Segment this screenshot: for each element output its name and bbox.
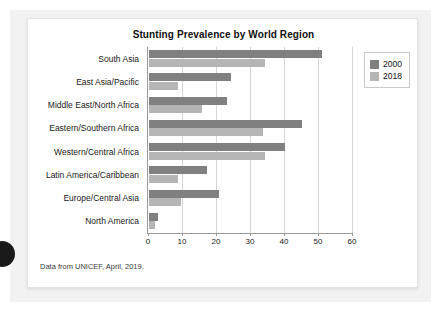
bar-2018 (149, 128, 263, 136)
x-tick-mark (216, 233, 217, 236)
category-label: Western/Central Africa (54, 147, 139, 157)
bar-2000 (149, 143, 285, 151)
x-tick-mark (352, 233, 353, 236)
x-tick-label: 0 (146, 237, 150, 246)
x-tick-label: 10 (178, 237, 187, 246)
bar-2000 (149, 190, 219, 198)
bar-2000 (149, 120, 302, 128)
x-tick-mark (250, 233, 251, 236)
bar-2000 (149, 73, 231, 81)
x-tick-label: 40 (280, 237, 289, 246)
bar-2018 (149, 105, 202, 113)
x-tick-mark (148, 233, 149, 236)
gridline (318, 47, 319, 233)
x-tick-label: 20 (212, 237, 221, 246)
bar-2018 (149, 82, 178, 90)
chart-card: Stunting Prevalence by World Region 2000… (27, 18, 418, 288)
category-label: North America (85, 216, 139, 226)
bar-2018 (149, 198, 181, 206)
bar-2018 (149, 175, 178, 183)
bar-2018 (149, 152, 265, 160)
bar-2018 (149, 59, 265, 67)
gridline (352, 47, 353, 233)
bar-2000 (149, 166, 207, 174)
plot-wrapper: South AsiaEast Asia/PacificMiddle East/N… (28, 47, 419, 252)
category-label: Eastern/Southern Africa (49, 123, 139, 133)
gridline (284, 47, 285, 233)
category-label: South Asia (98, 54, 139, 64)
category-label: Middle East/North Africa (48, 100, 139, 110)
x-tick-label: 30 (246, 237, 255, 246)
x-tick-mark (318, 233, 319, 236)
bar-2000 (149, 97, 227, 105)
x-tick-label: 50 (314, 237, 323, 246)
category-label: East Asia/Pacific (76, 77, 139, 87)
x-tick-label: 60 (348, 237, 357, 246)
x-tick-mark (182, 233, 183, 236)
bar-2000 (149, 50, 322, 58)
category-axis-labels: South AsiaEast Asia/PacificMiddle East/N… (28, 47, 143, 233)
bar-2000 (149, 213, 158, 221)
x-tick-mark (284, 233, 285, 236)
bar-2018 (149, 221, 155, 229)
chart-title: Stunting Prevalence by World Region (28, 29, 419, 40)
plot-area: 0102030405060 (147, 47, 352, 234)
source-note: Data from UNICEF, April, 2019. (40, 262, 144, 271)
category-label: Latin America/Caribbean (46, 170, 139, 180)
gridline (250, 47, 251, 233)
category-label: Europe/Central Asia (63, 193, 139, 203)
